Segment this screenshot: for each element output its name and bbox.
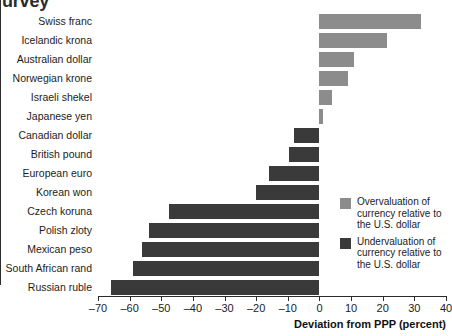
bar bbox=[142, 242, 319, 257]
bar-row: Israeli shekel bbox=[98, 88, 446, 107]
bar-row: Icelandic krona bbox=[98, 31, 446, 50]
category-label: Korean won bbox=[36, 185, 92, 199]
y-axis-line bbox=[0, 0, 1, 285]
tick-label: –50 bbox=[152, 302, 170, 314]
tick-mark bbox=[130, 296, 131, 301]
tick-label: –30 bbox=[215, 302, 233, 314]
category-label: Australian dollar bbox=[17, 52, 92, 66]
bar bbox=[169, 204, 319, 219]
tick-mark bbox=[256, 296, 257, 301]
category-label: Norwegian krone bbox=[13, 71, 92, 85]
legend-label: Undervaluation of currency relative to t… bbox=[357, 236, 446, 271]
category-label: Swiss franc bbox=[38, 14, 92, 28]
legend-swatch-icon bbox=[340, 198, 351, 209]
bar-row: Swiss franc bbox=[98, 12, 446, 31]
bar-row: Japanese yen bbox=[98, 107, 446, 126]
category-label: Canadian dollar bbox=[18, 128, 92, 142]
legend-swatch-icon bbox=[340, 238, 351, 249]
category-label: Russian ruble bbox=[28, 280, 92, 294]
bar bbox=[319, 71, 347, 86]
category-label: European euro bbox=[23, 166, 92, 180]
tick-label: –20 bbox=[247, 302, 265, 314]
tick-label: 0 bbox=[316, 302, 322, 314]
tick-label: 20 bbox=[377, 302, 389, 314]
legend-item-neg: Undervaluation of currency relative to t… bbox=[340, 236, 446, 271]
bar bbox=[149, 223, 320, 238]
bar bbox=[294, 128, 319, 143]
bar bbox=[133, 261, 320, 276]
bar-row: Canadian dollar bbox=[98, 126, 446, 145]
category-label: South African rand bbox=[6, 261, 92, 275]
page-title: urvey bbox=[2, 0, 49, 12]
category-label: Japanese yen bbox=[27, 109, 92, 123]
tick-mark bbox=[383, 296, 384, 301]
tick-label: 30 bbox=[408, 302, 420, 314]
bar bbox=[269, 166, 320, 181]
tick-label: –60 bbox=[120, 302, 138, 314]
tick-mark bbox=[446, 296, 447, 301]
bar bbox=[111, 280, 320, 295]
bar bbox=[319, 14, 420, 29]
tick-mark bbox=[161, 296, 162, 301]
tick-label: –70 bbox=[89, 302, 107, 314]
tick-mark bbox=[414, 296, 415, 301]
bar bbox=[289, 147, 319, 162]
bar-row: Norwegian krone bbox=[98, 69, 446, 88]
category-label: British pound bbox=[31, 147, 92, 161]
legend: Overvaluation of currency relative to th… bbox=[340, 196, 446, 276]
bar bbox=[319, 52, 354, 67]
tick-mark bbox=[98, 296, 99, 301]
bar-row: Australian dollar bbox=[98, 50, 446, 69]
legend-item-pos: Overvaluation of currency relative to th… bbox=[340, 196, 446, 231]
bar bbox=[319, 90, 332, 105]
bar-row: European euro bbox=[98, 164, 446, 183]
category-label: Icelandic krona bbox=[21, 33, 92, 47]
bar bbox=[319, 109, 322, 124]
tick-label: –40 bbox=[184, 302, 202, 314]
category-label: Polish zloty bbox=[39, 223, 92, 237]
tick-mark bbox=[351, 296, 352, 301]
category-label: Israeli shekel bbox=[31, 90, 92, 104]
x-axis-label: Deviation from PPP (percent) bbox=[294, 318, 446, 330]
x-axis-ticks: Deviation from PPP (percent) –70–60–50–4… bbox=[98, 296, 446, 330]
category-label: Czech koruna bbox=[27, 204, 92, 218]
bar-row: British pound bbox=[98, 145, 446, 164]
legend-label: Overvaluation of currency relative to th… bbox=[357, 196, 446, 231]
tick-mark bbox=[193, 296, 194, 301]
bar bbox=[256, 185, 319, 200]
tick-mark bbox=[288, 296, 289, 301]
bar-row: Russian ruble bbox=[98, 278, 446, 297]
tick-label: 40 bbox=[440, 302, 452, 314]
category-label: Mexican peso bbox=[27, 242, 92, 256]
tick-mark bbox=[319, 296, 320, 301]
tick-label: –10 bbox=[279, 302, 297, 314]
tick-label: 10 bbox=[345, 302, 357, 314]
bar bbox=[319, 33, 387, 48]
tick-mark bbox=[225, 296, 226, 301]
